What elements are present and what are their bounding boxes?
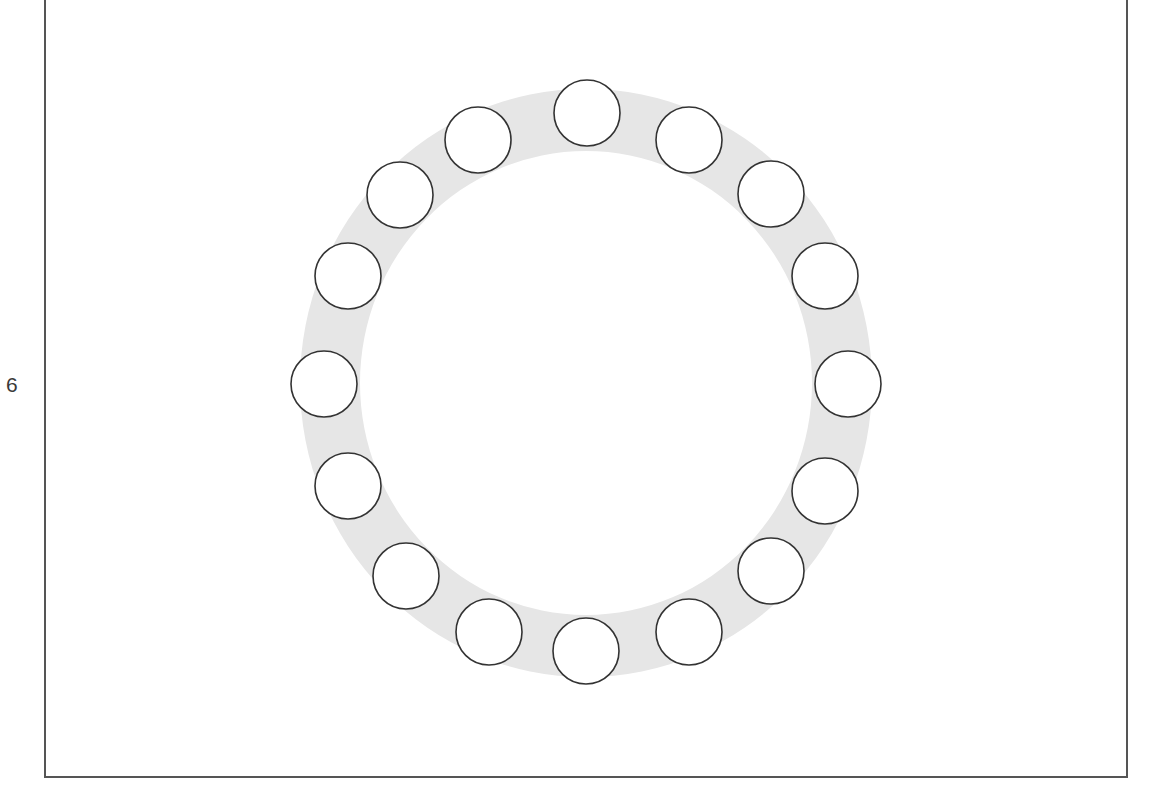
ring-node-circle — [815, 351, 881, 417]
ring-node-circle — [315, 243, 381, 309]
ring-nodes — [291, 80, 881, 684]
ring-node-circle — [554, 80, 620, 146]
ring-node-circle — [367, 162, 433, 228]
ring-node-circle — [456, 599, 522, 665]
ring-node-circle — [792, 458, 858, 524]
ring-node-circle — [445, 107, 511, 173]
ring-node-circle — [738, 161, 804, 227]
ring-node-circle — [291, 351, 357, 417]
ring-node-circle — [553, 618, 619, 684]
circle-ring-diagram — [0, 0, 1154, 797]
ring-node-circle — [656, 107, 722, 173]
ring-node-circle — [792, 243, 858, 309]
ring-node-circle — [738, 538, 804, 604]
ring-node-circle — [315, 453, 381, 519]
ring-node-circle — [656, 599, 722, 665]
ring-node-circle — [373, 543, 439, 609]
